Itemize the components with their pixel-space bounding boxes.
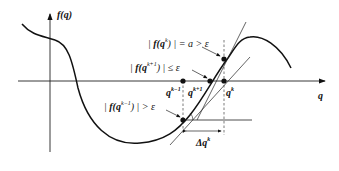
point-qk	[221, 78, 226, 83]
label-qkm1: qk−1	[166, 86, 181, 98]
x-axis-label: q	[318, 91, 323, 101]
point-fqkm1	[180, 117, 185, 122]
tangent-line-km1	[170, 57, 250, 145]
label-delta-qk: Δqk	[196, 136, 210, 148]
label-qkp1: qk+1	[188, 86, 202, 98]
y-axis-label: f(q)	[57, 10, 72, 20]
label-qk: qk	[226, 86, 234, 98]
point-fqk	[221, 56, 226, 61]
pointer-fqk1	[192, 70, 207, 78]
pointer-fqkm1	[166, 110, 180, 117]
newton-method-diagram: f(q) q | f(qk) | = a > ε | f(qk+1) | ≤ ε…	[0, 0, 339, 171]
annotation-fqk1: | f(qk+1) | ≤ ε	[130, 61, 180, 73]
annotation-fqk: | f(qk) | = a > ε	[148, 37, 209, 49]
point-qkm1	[180, 78, 185, 83]
point-qkp1	[207, 78, 212, 83]
annotation-fqkm1: | f(qk−1) | > ε	[104, 100, 155, 112]
